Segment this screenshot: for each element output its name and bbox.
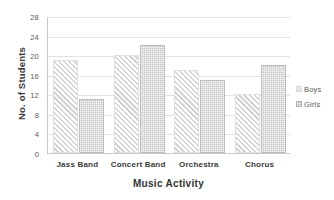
bar-chart: No. of Students 0481216202428 Jass BandC… bbox=[0, 0, 334, 200]
legend-item-girls[interactable]: Girls bbox=[296, 98, 334, 110]
x-axis-title: Music Activity bbox=[47, 178, 290, 189]
y-axis-tick-label: 12 bbox=[0, 91, 39, 100]
bar-girls-2 bbox=[140, 45, 165, 153]
y-axis-tick-label: 4 bbox=[0, 130, 39, 139]
bar-girls-4 bbox=[261, 65, 286, 153]
y-axis-tick-label: 16 bbox=[0, 72, 39, 81]
bar-boys-1 bbox=[53, 60, 78, 153]
legend-label: Girls bbox=[304, 100, 320, 109]
x-axis-tick-label: Jass Band bbox=[47, 160, 108, 169]
bar-boys-4 bbox=[235, 94, 260, 153]
y-axis-tick-label: 24 bbox=[0, 33, 39, 42]
y-axis-tick-label: 20 bbox=[0, 52, 39, 61]
y-axis-tick-label: 0 bbox=[0, 150, 39, 159]
legend-item-boys[interactable]: Boys bbox=[296, 83, 334, 95]
y-axis-tick-label: 8 bbox=[0, 111, 39, 120]
bar-boys-3 bbox=[174, 70, 199, 153]
bar-boys-2 bbox=[114, 55, 139, 153]
bar-girls-1 bbox=[79, 99, 104, 153]
bars-layer bbox=[48, 17, 290, 153]
x-axis-tick-label: Chorus bbox=[229, 160, 290, 169]
legend-swatch-girls-icon bbox=[296, 101, 302, 107]
y-axis-tick-label: 28 bbox=[0, 13, 39, 22]
x-axis-tick-label: Concert Band bbox=[108, 160, 169, 169]
plot-area bbox=[47, 17, 290, 154]
bar-girls-3 bbox=[200, 80, 225, 153]
legend-label: Boys bbox=[304, 85, 321, 94]
x-axis-tick-label: Orchestra bbox=[169, 160, 230, 169]
chart-legend: BoysGirls bbox=[296, 83, 334, 113]
legend-swatch-boys-icon bbox=[296, 86, 302, 92]
